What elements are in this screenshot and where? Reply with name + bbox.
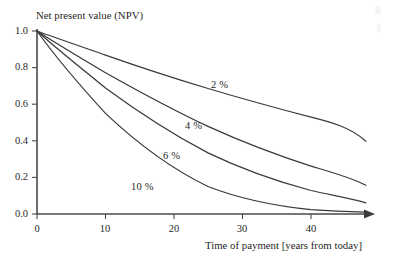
series-label-2-percent: 2 %	[211, 80, 228, 91]
series-label-4-percent: 4 %	[185, 121, 202, 132]
x-tick-label-20: 20	[160, 224, 188, 235]
x-tick-label-40: 40	[297, 224, 325, 235]
y-tick-label-0-8: 0.8	[0, 62, 28, 73]
y-tick-label-0-4: 0.4	[0, 136, 28, 147]
x-tick-label-0: 0	[23, 224, 51, 235]
scan-artifacts	[375, 5, 382, 32]
npv-chart: Net present value (NPV) 1.0 0.8 0.6 0.4 …	[0, 0, 395, 260]
axes-group	[37, 29, 375, 219]
x-axis-title: Time of payment [years from today]	[205, 240, 362, 251]
chart-title: Net present value (NPV)	[36, 10, 143, 21]
series-label-10-percent: 10 %	[131, 182, 154, 193]
y-tick-label-0-6: 0.6	[0, 99, 28, 110]
x-tick-label-10: 10	[91, 224, 119, 235]
y-tick-label-0-2: 0.2	[0, 172, 28, 183]
series-label-6-percent: 6 %	[163, 151, 180, 162]
x-axis-arrow	[364, 210, 375, 219]
y-tick-label-0-0: 0.0	[0, 209, 28, 220]
curve-6-percent	[37, 31, 366, 203]
curve-4-percent	[37, 31, 366, 185]
x-tick-label-30: 30	[228, 224, 256, 235]
y-tick-label-1-0: 1.0	[0, 26, 28, 37]
